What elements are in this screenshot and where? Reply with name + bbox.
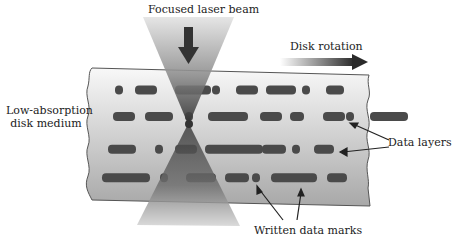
data-mark-dash (113, 112, 135, 121)
data-mark-dot (252, 173, 260, 182)
data-mark-dash (236, 86, 258, 95)
disk-rotation-label: Disk rotation (290, 40, 363, 53)
data-mark-dash (266, 86, 296, 95)
data-mark-dot (115, 86, 123, 95)
low-absorption-label: Low-absorption disk medium (6, 104, 86, 130)
data-mark-dash (323, 112, 345, 121)
data-mark-dash (262, 145, 286, 154)
data-mark-dash (205, 145, 263, 154)
data-mark-dash (290, 112, 304, 121)
data-mark-dash (225, 173, 249, 182)
data-mark-dash (326, 86, 344, 95)
data-mark-dash (135, 86, 157, 95)
data-mark-dot (292, 145, 300, 154)
focal-point (185, 120, 193, 128)
data-mark-dash (327, 173, 347, 182)
data-mark-dot (155, 145, 163, 154)
data-mark-dash (108, 145, 136, 154)
right-arrow-icon (280, 54, 368, 70)
data-mark-dot (212, 86, 220, 95)
data-mark-dot (346, 112, 354, 121)
data-layers-label: Data layers (388, 136, 452, 149)
low-absorption-line1: Low-absorption (6, 104, 86, 117)
low-absorption-line2: disk medium (6, 117, 86, 130)
data-mark-dash (314, 145, 334, 154)
data-mark-dash (271, 173, 317, 182)
data-mark-dash (145, 112, 173, 121)
focused-laser-beam-label: Focused laser beam (148, 3, 259, 16)
written-data-marks-label: Written data marks (254, 224, 362, 237)
data-mark-dash (370, 112, 408, 121)
data-mark-dash (208, 112, 248, 121)
data-mark-dash (102, 173, 150, 182)
data-mark-dot (302, 86, 310, 95)
data-mark-dash (260, 112, 282, 121)
